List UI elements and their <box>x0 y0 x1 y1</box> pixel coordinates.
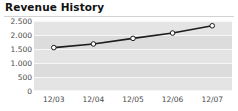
page-title: Revenue History <box>5 1 104 13</box>
y-axis-tick-label: 500 <box>0 73 32 82</box>
x-axis-tick-label: 12/06 <box>162 95 184 104</box>
plot-area <box>34 21 232 91</box>
y-axis: 05001.0001.5002.0002.500 <box>0 21 32 91</box>
data-point-marker[interactable] <box>210 23 215 28</box>
x-axis-tick-label: 12/07 <box>201 95 223 104</box>
data-point-marker[interactable] <box>170 31 175 36</box>
y-axis-tick-label: 1.000 <box>0 59 32 68</box>
y-axis-tick-label: 2.500 <box>0 17 32 26</box>
title-divider <box>4 16 234 17</box>
x-axis-tick-label: 12/04 <box>83 95 105 104</box>
x-axis-tick-label: 12/03 <box>43 95 65 104</box>
data-point-marker[interactable] <box>91 42 96 47</box>
y-axis-tick-label: 0 <box>0 87 32 96</box>
y-axis-tick-label: 2.000 <box>0 31 32 40</box>
y-axis-tick-label: 1.500 <box>0 45 32 54</box>
revenue-history-chart-widget: Revenue History 05001.0001.5002.0002.500… <box>0 0 238 111</box>
x-axis-tick-label: 12/05 <box>122 95 144 104</box>
line-series-svg <box>34 21 232 91</box>
data-point-marker[interactable] <box>52 45 57 50</box>
data-point-marker[interactable] <box>131 36 136 41</box>
x-axis: 12/0312/0412/0512/0612/07 <box>34 95 232 107</box>
